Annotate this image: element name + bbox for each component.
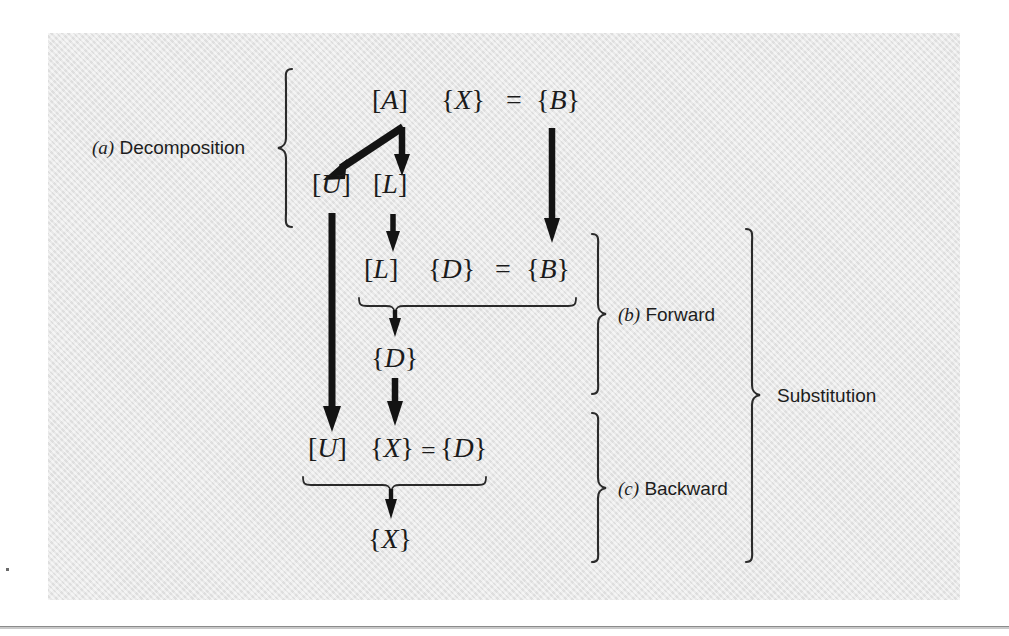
- brace-open: {: [371, 342, 384, 373]
- symbol-B: B: [539, 253, 556, 284]
- brace-open: {: [440, 432, 453, 463]
- symbol-X: X: [454, 84, 471, 115]
- brace-close: }: [405, 342, 418, 373]
- result-forward-D: {D}: [371, 344, 418, 372]
- bracket-open: [: [308, 432, 317, 463]
- brace-close: }: [567, 84, 580, 115]
- label-stage-c-tag: (c): [618, 478, 639, 499]
- label-stage-c-text: Backward: [644, 478, 727, 499]
- brace-open: {: [526, 253, 539, 284]
- page-corner-mark: [6, 568, 9, 571]
- bracket-close: ]: [338, 432, 347, 463]
- label-stage-a-tag: (a): [92, 137, 114, 158]
- brace-open: {: [428, 253, 441, 284]
- equation-original-unknown: {X}: [441, 86, 485, 114]
- symbol-D: D: [453, 432, 473, 463]
- equation-original-matrix: [A]: [372, 86, 408, 114]
- brace-close: }: [399, 523, 412, 554]
- equation-forward-unknown: {D}: [428, 255, 475, 283]
- bracket-open: [: [372, 84, 381, 115]
- brace-open: {: [536, 84, 549, 115]
- brace-close: }: [462, 253, 475, 284]
- bracket-open: [: [364, 253, 373, 284]
- symbol-X: X: [383, 432, 400, 463]
- equation-forward-rhs: {B}: [526, 255, 570, 283]
- result-backward-X: {X}: [368, 525, 412, 553]
- figure-panel: [48, 33, 960, 600]
- bracket-close: ]: [389, 253, 398, 284]
- label-stage-b-text: Forward: [645, 304, 715, 325]
- equation-forward-matrix: [L]: [364, 255, 398, 283]
- brace-close: }: [557, 253, 570, 284]
- factor-lower-matrix: [L]: [373, 170, 407, 198]
- brace-open: {: [368, 523, 381, 554]
- brace-close: }: [474, 432, 487, 463]
- equation-backward-equals: =: [421, 438, 436, 464]
- brace-close: }: [401, 432, 414, 463]
- brace-open: {: [370, 432, 383, 463]
- equation-backward-matrix: [U]: [308, 434, 347, 462]
- bracket-close: ]: [342, 168, 351, 199]
- bracket-open: [: [373, 168, 382, 199]
- bracket-close: ]: [398, 168, 407, 199]
- equation-original-rhs: {B}: [536, 86, 580, 114]
- symbol-U: U: [317, 432, 337, 463]
- equation-backward-rhs: {D}: [440, 434, 487, 462]
- symbol-D: D: [441, 253, 461, 284]
- label-substitution: Substitution: [777, 385, 876, 407]
- label-stage-a: (a) Decomposition: [92, 137, 245, 159]
- symbol-L: L: [382, 168, 398, 199]
- page-footer-rule: [0, 626, 1009, 629]
- bracket-open: [: [312, 168, 321, 199]
- label-stage-b-tag: (b): [618, 304, 640, 325]
- symbol-A: A: [381, 84, 398, 115]
- bracket-close: ]: [398, 84, 407, 115]
- symbol-B: B: [549, 84, 566, 115]
- label-stage-c: (c) Backward: [618, 478, 728, 500]
- factor-upper-matrix: [U]: [312, 170, 351, 198]
- symbol-L: L: [373, 253, 389, 284]
- brace-open: {: [441, 84, 454, 115]
- equation-original-equals: =: [506, 86, 522, 114]
- brace-close: }: [472, 84, 485, 115]
- equation-forward-equals: =: [495, 255, 511, 283]
- label-stage-b: (b) Forward: [618, 304, 715, 326]
- symbol-U: U: [321, 168, 341, 199]
- symbol-X: X: [381, 523, 398, 554]
- label-stage-a-text: Decomposition: [119, 137, 245, 158]
- symbol-D: D: [384, 342, 404, 373]
- equation-backward-unknown: {X}: [370, 434, 414, 462]
